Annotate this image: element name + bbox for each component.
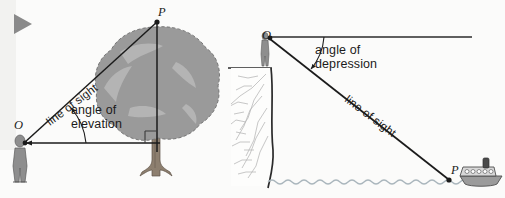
- point-label-p-right: P: [451, 163, 459, 178]
- point-p-right-dot: [446, 177, 451, 182]
- point-label-o-left: O: [14, 118, 23, 133]
- boat-hull: [460, 176, 502, 186]
- cliff-graphic: [228, 68, 273, 188]
- angle-label-line-2: elevation: [71, 118, 122, 132]
- point-label-p-left: P: [158, 5, 166, 20]
- point-o-left-dot: [23, 141, 28, 146]
- person-body: [13, 148, 27, 182]
- water-line: [268, 180, 492, 184]
- point-label-o-right: O: [262, 28, 271, 43]
- person-body: [261, 40, 269, 66]
- boat-smokestack: [483, 158, 489, 168]
- angle-of-depression-label: angle of depression: [315, 44, 377, 71]
- play-triangle-marker: [14, 14, 32, 34]
- geometry-diagram: line of sight angle of elevation P O ang…: [0, 0, 505, 198]
- angle-label-line-1: angle of: [71, 104, 122, 118]
- angle-label-line-1: angle of: [315, 44, 377, 58]
- boat-graphic: [460, 158, 502, 186]
- angle-label-line-2: depression: [315, 58, 377, 72]
- point-p-left-dot: [154, 19, 159, 24]
- angle-of-elevation-label: angle of elevation: [71, 104, 122, 131]
- person-head: [15, 135, 25, 147]
